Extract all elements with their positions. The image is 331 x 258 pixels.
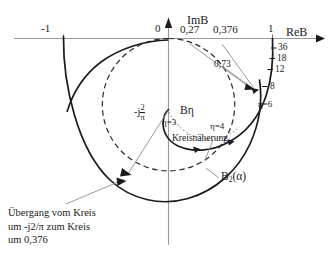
figure-canvas: ImB ReB -1 0 0,27 0,376 1 0,73 36 18 12 …	[0, 0, 331, 258]
tick-label-one: 1	[268, 23, 274, 34]
eta-label-4: η=4	[210, 122, 224, 131]
leader-b2alpha	[206, 168, 219, 178]
tick-label-minus-one: -1	[41, 23, 50, 34]
eta-arrow-3	[193, 147, 201, 154]
b-eta-label: Bη	[180, 105, 194, 117]
fraction-numerator: 2	[140, 103, 144, 112]
caption-line-2: um -j2/π zum Kreis	[8, 220, 96, 234]
imag-axis-arrow	[165, 18, 172, 29]
two-over-pi-fraction: 2π	[140, 103, 144, 122]
b2-label-argument: (α)	[232, 170, 246, 182]
eta-label-3: η=3	[162, 118, 176, 127]
caption-line-1: Übergang vom Kreis	[8, 206, 96, 220]
eta-label-8: 8	[270, 82, 275, 92]
real-axis-label: ReB	[286, 26, 307, 38]
leader-label-0-73: 0,73	[214, 60, 231, 70]
kreisnaeherung-label: Kreisnäherung	[172, 134, 228, 144]
tick-label-0-27: 0,27	[180, 24, 199, 35]
tick-label-0-376: 0,376	[213, 24, 238, 35]
b2-label-main: B	[221, 170, 229, 182]
b2-alpha-upper-arc	[67, 40, 169, 112]
eta-label-36: 36	[278, 43, 288, 53]
caption-line-3: um 0,376	[8, 233, 96, 247]
real-axis-arrow	[316, 35, 325, 43]
minus-j-two-over-pi-label: -j2π	[134, 103, 145, 122]
eta-label-6: η=6	[258, 100, 272, 109]
transition-arrow-upper	[120, 168, 132, 177]
b2-alpha-label: B2(α)	[221, 171, 246, 184]
eta-label-18: 18	[277, 54, 287, 64]
leader-caption	[66, 180, 124, 205]
transition-arrow-lower	[117, 178, 127, 187]
eta-label-12: 12	[275, 65, 285, 75]
caption-block: Übergang vom Kreis um -j2/π zum Kreis um…	[8, 206, 96, 247]
fraction-denominator: π	[140, 112, 144, 122]
tick-label-zero: 0	[155, 23, 161, 34]
